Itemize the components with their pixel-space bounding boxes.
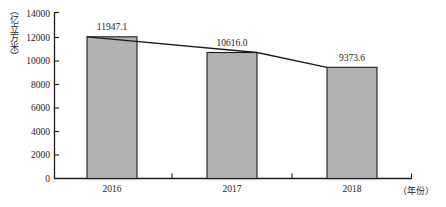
bar-value-label-2018: 9373.6 (316, 53, 388, 63)
x-axis-unit-label: （年份） (398, 184, 434, 197)
x-axis-category-label-2016: 2016 (77, 184, 147, 194)
bar-value-label-2017: 10616.0 (196, 38, 268, 48)
plot-area (0, 0, 446, 207)
bar-value-label-2016: 11947.1 (76, 22, 148, 32)
bar-chart-figure: （亿立方米） 14000 12000 10000 8000 6000 4000 … (0, 0, 446, 207)
bar-2016 (87, 37, 137, 179)
y-axis-ticks (55, 38, 60, 156)
x-axis-category-label-2018: 2018 (317, 184, 387, 194)
bar-2018 (327, 67, 377, 178)
bar-2017 (207, 53, 257, 179)
x-axis-category-label-2017: 2017 (197, 184, 267, 194)
